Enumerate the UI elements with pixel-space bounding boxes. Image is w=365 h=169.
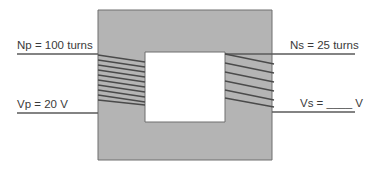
secondary-voltage-label: Vs = ____ V bbox=[300, 98, 363, 110]
primary-turns-label: Np = 100 turns bbox=[17, 40, 93, 52]
primary-voltage-label: Vp = 20 V bbox=[17, 99, 68, 111]
transformer-diagram bbox=[0, 0, 365, 169]
secondary-turns-label: Ns = 25 turns bbox=[290, 40, 359, 52]
